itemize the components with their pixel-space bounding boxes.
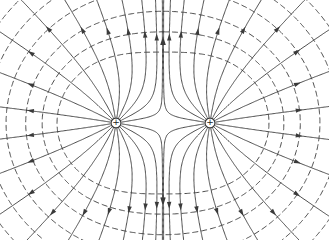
right-charge-label: +: [205, 118, 215, 127]
left-charge-label: +: [111, 118, 121, 127]
field-diagram: [0, 0, 329, 240]
